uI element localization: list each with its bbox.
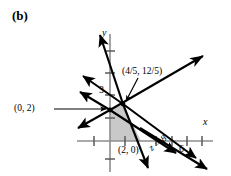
y-axis-tick-label-3: 3 (99, 84, 104, 95)
y-axis-label: y (102, 27, 106, 38)
label-vertex-y-intercept: (0, 2) (14, 103, 35, 113)
constraint-line-lower-left (78, 110, 110, 128)
x-axis-label: x (203, 116, 207, 127)
vertex-dot-y-intercept (108, 108, 113, 113)
figure-container: (b) (0, 0, 231, 176)
label-vertex-interior: (4/5, 12/5) (122, 66, 162, 76)
label-vertex-x-intercept: (2, 0) (118, 145, 139, 155)
linear-programming-plot (0, 0, 231, 176)
vertex-dot-interior (121, 102, 126, 107)
x-axis-tick-label-6: 6 (179, 143, 184, 154)
